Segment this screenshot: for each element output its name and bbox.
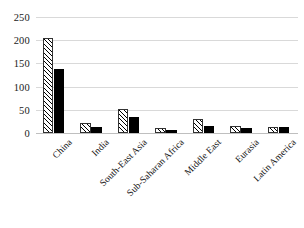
x-axis-label: Eurasia (233, 137, 261, 165)
x-axis-label: China (50, 137, 73, 160)
y-axis-tick-label: 100 (14, 81, 30, 92)
bar-series-1 (118, 109, 129, 133)
bar-series-2 (129, 117, 140, 133)
plot-area (36, 17, 298, 133)
bar-group (186, 17, 223, 133)
y-axis-tick-label: 200 (14, 35, 30, 46)
y-axis-tick-label: 150 (14, 58, 30, 69)
bar-series-2 (54, 69, 65, 133)
x-axis-category-labels: ChinaIndiaSouth-East AsiaSub-Saharan Afr… (36, 133, 298, 228)
x-axis-label: India (90, 137, 111, 158)
bar-group (36, 17, 73, 133)
bar-series-1 (230, 126, 241, 133)
bar-group (223, 17, 260, 133)
bar-group (261, 17, 298, 133)
chart-page: 050100150200250 ChinaIndiaSouth-East Asi… (0, 0, 304, 228)
bar-group (148, 17, 185, 133)
bar-series-1 (80, 123, 91, 133)
bar-series-1 (43, 38, 54, 133)
y-axis-tick-label: 0 (25, 128, 30, 139)
bar-series-1 (193, 119, 204, 133)
bar-groups (36, 17, 298, 133)
bar-group (111, 17, 148, 133)
y-axis: 050100150200250 (0, 0, 36, 228)
x-axis-label: Middle East (183, 137, 224, 178)
y-axis-tick-label: 250 (14, 12, 30, 23)
bar-series-2 (204, 126, 215, 133)
bar-group (73, 17, 110, 133)
y-axis-tick-label: 50 (19, 104, 30, 115)
